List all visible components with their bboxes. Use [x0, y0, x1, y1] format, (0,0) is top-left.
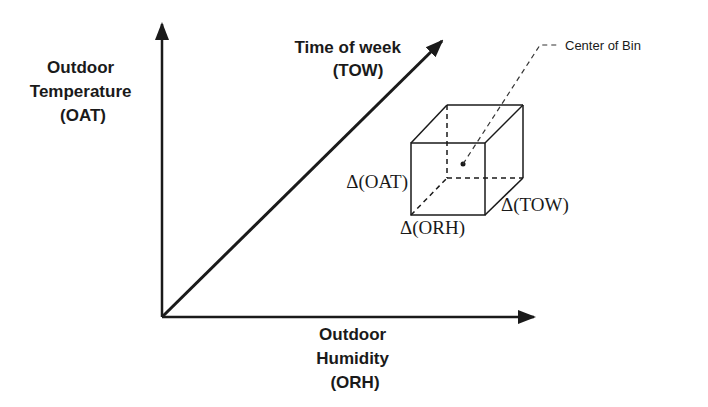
- x-axis-label: Outdoor Humidity (ORH): [316, 325, 393, 392]
- delta-tow-label: Δ(TOW): [501, 194, 569, 216]
- bin-diagram: Outdoor Temperature (OAT) Time of week (…: [0, 0, 708, 407]
- delta-orh-label: Δ(ORH): [400, 217, 465, 239]
- y-axis-label: Outdoor Temperature (OAT): [30, 58, 136, 125]
- delta-oat-label: Δ(OAT): [346, 171, 408, 193]
- center-of-bin-label: Center of Bin: [565, 38, 641, 53]
- diagonal-axis-label: Time of week (TOW): [294, 38, 405, 80]
